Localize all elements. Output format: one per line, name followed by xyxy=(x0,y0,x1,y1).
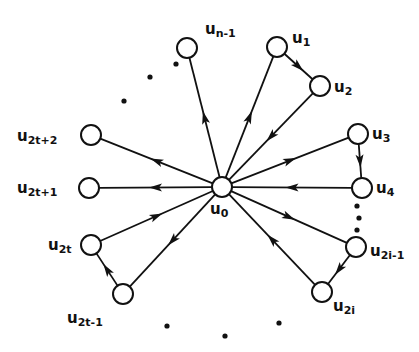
directed-graph-diagram: u0un-1u1u2u3u4u2i-1u2iu2t-1u2tu2t+1u2t+2 xyxy=(0,0,419,352)
vertex-u2 xyxy=(310,76,330,96)
vertex-label-u0: u0 xyxy=(210,200,229,220)
edge-u2i-to-u0 xyxy=(229,194,315,285)
edge-u2i1-to-u2i xyxy=(328,255,350,284)
ellipsis-dot xyxy=(354,203,359,208)
vertex-label-u3: u3 xyxy=(372,125,390,145)
ellipsis-dot xyxy=(276,320,281,325)
vertex-label-u2i1: u2i-1 xyxy=(370,242,404,262)
edge-u1-to-u2 xyxy=(284,54,312,80)
vertex-u2t xyxy=(81,235,101,255)
arrowhead-icon xyxy=(103,264,114,277)
ellipsis-dot xyxy=(222,333,227,338)
edge-u0-to-u2tp2 xyxy=(100,139,212,184)
vertex-u2tp1 xyxy=(79,178,99,198)
edge-u4-to-u0 xyxy=(232,184,352,192)
ellipsis-dot xyxy=(147,74,152,79)
edge-u0-to-u2tp1 xyxy=(99,184,212,192)
vertex-label-u2i: u2i xyxy=(333,297,355,317)
vertex-label-u2tp1: u2t+1 xyxy=(17,179,57,199)
vertex-u3 xyxy=(348,124,368,144)
vertex-u2tp2 xyxy=(81,125,101,145)
arrowhead-icon xyxy=(335,262,346,275)
vertex-label-u2: u2 xyxy=(334,78,352,98)
nodes-layer xyxy=(79,37,372,304)
vertex-u2i1 xyxy=(346,237,366,257)
ellipsis-dot xyxy=(356,215,361,220)
ellipsis-dot xyxy=(354,227,359,232)
labels-layer: u0un-1u1u2u3u4u2i-1u2iu2t-1u2tu2t+1u2t+2 xyxy=(17,20,404,329)
edge-u2t1-to-u2t xyxy=(96,253,117,285)
vertex-un1 xyxy=(177,38,197,58)
vertex-u1 xyxy=(267,37,287,57)
ellipsis-dot xyxy=(173,61,178,66)
vertex-label-u2t1: u2t-1 xyxy=(67,309,103,329)
vertex-label-u2t: u2t xyxy=(48,236,72,256)
vertex-label-u1: u1 xyxy=(292,29,310,49)
edge-u3-to-u4 xyxy=(356,144,364,178)
ellipsis-dot xyxy=(164,323,169,328)
vertex-label-u2tp2: u2t+2 xyxy=(17,127,57,147)
vertex-u0 xyxy=(212,177,232,197)
edge-u0-to-u2i1 xyxy=(231,191,347,243)
vertex-label-u4: u4 xyxy=(376,179,395,199)
vertex-u4 xyxy=(352,178,372,198)
vertex-u2i xyxy=(312,282,332,302)
edge-u0-to-un1 xyxy=(189,58,219,178)
ellipsis-dot xyxy=(121,98,126,103)
vertex-label-un1: un-1 xyxy=(205,20,236,40)
vertex-u2t1 xyxy=(113,284,133,304)
